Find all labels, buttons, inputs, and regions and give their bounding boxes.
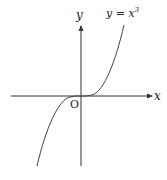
- curve-label-main: y = x: [105, 7, 135, 20]
- curve-label: y = x3: [105, 6, 140, 20]
- origin-label: O: [70, 98, 79, 111]
- curve-label-exponent: 3: [135, 6, 140, 14]
- cubic-graph: x y O y = x3: [0, 0, 167, 180]
- x-axis-label: x: [154, 89, 161, 103]
- y-axis-label: y: [75, 8, 83, 22]
